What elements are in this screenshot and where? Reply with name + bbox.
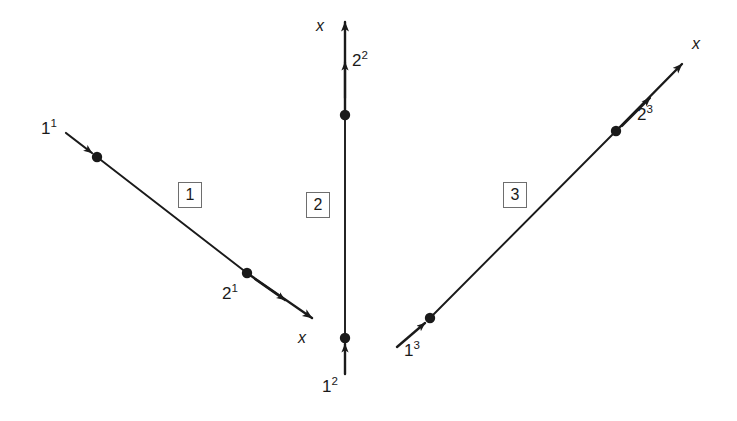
diagram-svg bbox=[0, 0, 737, 421]
element-3-axis-label: x bbox=[692, 36, 700, 52]
element-3-node1-label: 13 bbox=[404, 342, 420, 359]
element-1-node1-leader-arrow bbox=[66, 133, 92, 153]
element-2-node1-dot bbox=[340, 333, 350, 343]
element-1-axis-label: x bbox=[298, 330, 306, 346]
element-2-node1-label: 12 bbox=[322, 378, 338, 395]
figure-canvas: 11 21 x 1 12 22 x 2 13 23 x 3 bbox=[0, 0, 737, 421]
element-1-number-box: 1 bbox=[178, 182, 202, 208]
element-1-node1-label: 11 bbox=[41, 120, 57, 137]
element-3-node1-dot bbox=[425, 313, 435, 323]
element-3-bar bbox=[430, 131, 616, 318]
element-2-number-box: 2 bbox=[306, 192, 330, 218]
element-2-node2-label: 22 bbox=[352, 52, 368, 69]
element-2-group bbox=[340, 22, 350, 374]
element-2-axis-label: x bbox=[316, 18, 324, 34]
element-1-group bbox=[66, 133, 312, 318]
element-1-direction-arrow bbox=[255, 279, 285, 300]
element-1-node1-dot bbox=[92, 152, 102, 162]
element-3-node2-label: 23 bbox=[637, 106, 653, 123]
element-3-number-box: 3 bbox=[503, 182, 527, 208]
element-1-bar bbox=[97, 157, 247, 273]
element-1-node2-label: 21 bbox=[222, 285, 238, 302]
element-2-node2-dot bbox=[340, 110, 350, 120]
element-3-node2-dot bbox=[611, 126, 621, 136]
element-1-node2-dot bbox=[242, 268, 252, 278]
